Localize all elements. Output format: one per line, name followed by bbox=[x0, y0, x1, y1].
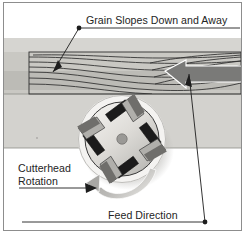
diagram-figure: Grain Slopes Down and Away Cutterhead Ro… bbox=[0, 0, 245, 234]
illustration-canvas bbox=[0, 0, 245, 234]
band-upper-light bbox=[4, 38, 241, 53]
cutterhead-hub bbox=[117, 134, 127, 144]
label-cutterhead-line1: Cutterhead bbox=[18, 162, 71, 175]
label-grain-slopes-down-and-away: Grain Slopes Down and Away bbox=[86, 14, 227, 27]
label-feed-direction: Feed Direction bbox=[108, 209, 178, 222]
table-texture-speck bbox=[36, 137, 38, 139]
label-cutterhead-line2: Rotation bbox=[18, 175, 71, 188]
label-cutterhead-rotation: Cutterhead Rotation bbox=[18, 162, 71, 187]
